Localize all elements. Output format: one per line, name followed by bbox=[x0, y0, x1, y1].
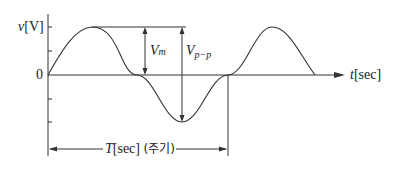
arrowhead-icon bbox=[143, 27, 148, 34]
x-axis-label: t[sec] bbox=[350, 68, 381, 82]
arrowhead-icon bbox=[49, 147, 57, 152]
y-axis-label: v[V] bbox=[18, 20, 44, 34]
waveform-diagram bbox=[0, 0, 394, 173]
period-unit: [sec] bbox=[113, 141, 140, 156]
arrowhead-icon bbox=[180, 27, 185, 34]
arrowhead-icon bbox=[143, 68, 148, 75]
arrowhead-icon bbox=[219, 147, 227, 152]
period-var: T bbox=[105, 141, 113, 156]
y-axis-unit: [V] bbox=[24, 19, 43, 34]
vpp-label: Vp−p bbox=[186, 44, 211, 58]
period-label: T[sec] (주기) bbox=[105, 142, 175, 156]
vm-sub: m bbox=[159, 46, 166, 57]
period-korean: (주기) bbox=[144, 142, 175, 156]
x-axis-arrowhead-icon bbox=[334, 72, 345, 78]
vpp-sub: p−p bbox=[195, 49, 212, 60]
vm-label: Vm bbox=[150, 44, 166, 58]
vpp-main: V bbox=[186, 43, 195, 58]
x-axis-unit: [sec] bbox=[354, 67, 381, 82]
origin-label: 0 bbox=[36, 68, 43, 82]
vm-main: V bbox=[150, 43, 159, 58]
arrowhead-icon bbox=[180, 115, 185, 122]
